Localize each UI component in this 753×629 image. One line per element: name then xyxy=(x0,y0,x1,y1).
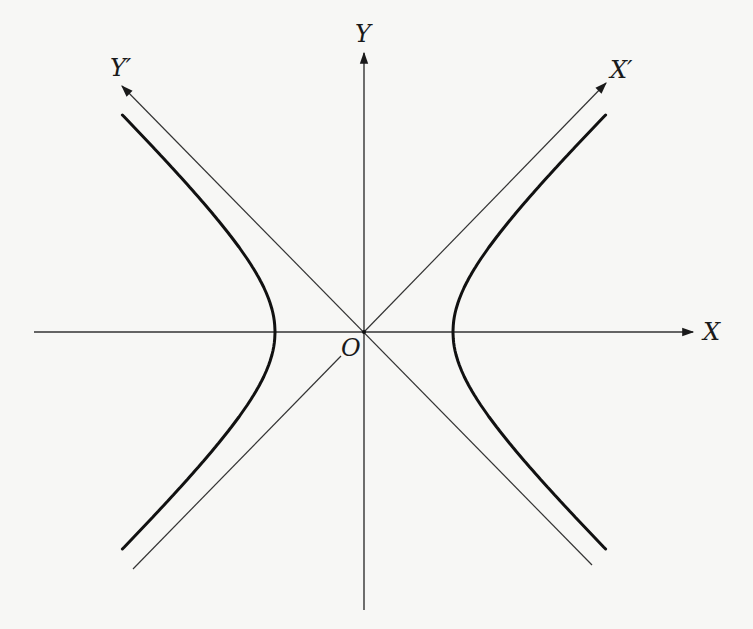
y-prime-label: Y′ xyxy=(110,56,131,80)
x-prime-asymptote-lower-segment xyxy=(133,356,341,569)
origin-label: O xyxy=(341,336,361,360)
origin-point xyxy=(362,330,366,334)
y-prime-asymptote xyxy=(122,86,592,565)
diagram-drawing xyxy=(0,0,753,629)
hyperbola-diagram: Y′ Y X′ X O xyxy=(0,0,753,629)
x-prime-asymptote xyxy=(364,83,606,332)
x-axis-label: X xyxy=(703,320,720,344)
x-prime-label: X′ xyxy=(610,58,633,82)
y-axis-label: Y xyxy=(355,22,371,46)
